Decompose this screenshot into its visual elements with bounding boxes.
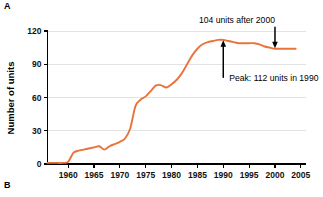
x-axis: 1960196519701975198019851990199520002005 [48, 164, 311, 180]
x-tick-label: 1975 [136, 170, 155, 180]
data-series [48, 40, 296, 163]
y-tick-label: 120 [27, 26, 41, 36]
series-line [48, 40, 296, 163]
x-tick-label: 1995 [240, 170, 259, 180]
y-axis-title: Number of units [5, 62, 16, 135]
annotation-arrowhead-up [220, 40, 226, 47]
x-tick-label: 1970 [110, 170, 129, 180]
y-tick-label: 90 [32, 59, 42, 69]
y-axis: 0306090120 [27, 26, 47, 169]
x-tick-label: 2000 [266, 170, 285, 180]
y-tick-label: 30 [32, 126, 42, 136]
annotation-label-peak: Peak: 112 units in 1990 [229, 73, 318, 83]
x-tick-label: 2005 [291, 170, 310, 180]
x-tick-label: 1990 [214, 170, 233, 180]
annotation-arrowhead-down [272, 42, 278, 49]
y-tick-label: 60 [32, 93, 42, 103]
x-tick-label: 1980 [162, 170, 181, 180]
y-tick-label: 0 [37, 159, 42, 169]
annotation-label-after-2000: 104 units after 2000 [199, 15, 275, 25]
figure-panel-a: A B 0306090120 1960196519701975198019851… [0, 0, 323, 197]
x-tick-label: 1985 [188, 170, 207, 180]
line-chart: 0306090120 19601965197019751980198519901… [0, 0, 323, 197]
annotations: Peak: 112 units in 1990104 units after 2… [199, 15, 319, 84]
x-tick-label: 1965 [85, 170, 104, 180]
x-tick-label: 1960 [59, 170, 78, 180]
